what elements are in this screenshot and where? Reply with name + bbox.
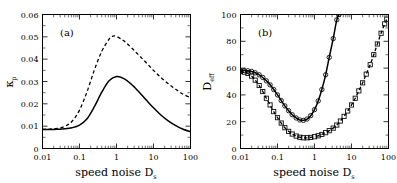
xtick-label: 0.1 xyxy=(73,153,86,162)
panel-b: 0.010.1110100 020406080100 (b) speed noi… xyxy=(198,0,397,183)
panel-b-yaxis-label: Deff xyxy=(201,72,216,91)
ytick-label: 0.06 xyxy=(21,11,39,20)
xtick-label: 0.01 xyxy=(232,153,250,162)
figure-container: 0.010.1110100 00.010.020.030.040.050.06 … xyxy=(0,0,397,183)
ytick-label: 0 xyxy=(33,145,38,154)
ytick-label: 100 xyxy=(221,11,236,20)
ytick-label: 0.03 xyxy=(21,78,39,87)
ytick-label: 0.01 xyxy=(21,122,39,131)
panel-b-xaxis-label: speed noise Ds xyxy=(273,166,354,181)
ytick-label: 0 xyxy=(231,145,236,154)
xtick-label: 0.1 xyxy=(271,153,284,162)
xtick-label: 10 xyxy=(148,153,158,162)
ytick-label: 0.04 xyxy=(21,55,39,64)
xtick-label: 1 xyxy=(312,153,317,162)
series-markers-circles-solid xyxy=(238,12,341,122)
ytick-label: 0.05 xyxy=(21,33,39,42)
series-curve-dashed xyxy=(43,36,191,129)
panel-a-ytick-labels: 00.010.020.030.040.050.06 xyxy=(21,11,39,154)
series-curve-solid xyxy=(43,77,191,132)
ytick-label: 80 xyxy=(226,37,236,46)
panel-b-svg: 0.010.1110100 020406080100 (b) speed noi… xyxy=(198,0,397,183)
panel-a-yaxis-label: κp xyxy=(3,76,18,87)
panel-a-tag: (a) xyxy=(60,27,74,38)
panel-a-svg: 0.010.1110100 00.010.020.030.040.050.06 … xyxy=(0,0,199,183)
ytick-label: 0.02 xyxy=(21,100,39,109)
panel-a: 0.010.1110100 00.010.020.030.040.050.06 … xyxy=(0,0,199,183)
ytick-label: 40 xyxy=(226,91,236,100)
panel-a-xaxis-label: speed noise Ds xyxy=(75,166,156,181)
panel-a-curves xyxy=(43,36,191,132)
panel-b-ytick-labels: 020406080100 xyxy=(221,11,236,154)
xtick-label: 1 xyxy=(114,153,119,162)
panel-b-tag: (b) xyxy=(258,27,272,38)
xtick-label: 10 xyxy=(346,153,356,162)
panel-b-xtick-labels: 0.010.1110100 xyxy=(232,153,397,162)
panel-a-xtick-labels: 0.010.1110100 xyxy=(34,153,199,162)
xtick-label: 100 xyxy=(183,153,198,162)
ytick-label: 60 xyxy=(226,64,236,73)
ytick-label: 20 xyxy=(226,118,236,127)
xtick-label: 100 xyxy=(381,153,396,162)
series-curve-circles-solid xyxy=(241,15,340,121)
xtick-label: 0.01 xyxy=(34,153,52,162)
